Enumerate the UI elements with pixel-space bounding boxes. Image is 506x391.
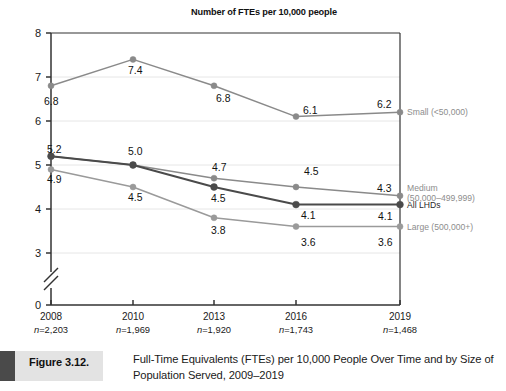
- series-lines: [51, 59, 400, 226]
- x-tick-2019: 2019n=1,468: [365, 311, 435, 336]
- data-label-14: 4.1: [378, 212, 392, 222]
- x-tick-sample-size: n=2,203: [16, 325, 86, 336]
- y-tick-8: 8: [25, 28, 41, 39]
- y-tick-4: 4: [25, 204, 41, 215]
- figure-container: Number of FTEs per 10,000 people 8765430…: [0, 0, 506, 391]
- data-label-6: 5.0: [128, 147, 142, 157]
- y-tick-7: 7: [25, 72, 41, 83]
- x-tick-2016: 2016n=1,743: [261, 311, 331, 336]
- y-tick-5: 5: [25, 160, 41, 171]
- data-label-3: 6.1: [303, 106, 317, 116]
- legend-line-1: Large (500,000+): [407, 222, 473, 232]
- data-label-8: 4.5: [304, 167, 318, 177]
- y-tick-3: 3: [25, 248, 41, 259]
- data-label-12: 4.5: [211, 194, 225, 204]
- legend-label-small-50-000: Small (<50,000): [407, 107, 468, 117]
- legend-label-all-lhds: All LHDs: [407, 200, 440, 210]
- x-tick-2010: 2010n=1,969: [98, 311, 168, 336]
- x-tick-sample-size: n=1,468: [365, 325, 435, 336]
- x-tick-year: 2019: [389, 311, 411, 322]
- x-tick-2013: 2013n=1,920: [179, 311, 249, 336]
- legend-line-1: All LHDs: [407, 200, 440, 210]
- data-label-0: 6.8: [44, 97, 58, 107]
- data-label-11: 4.5: [128, 193, 142, 203]
- data-label-2: 6.8: [216, 94, 230, 104]
- x-tick-sample-size: n=1,969: [98, 325, 168, 336]
- y-tick-0: 0: [25, 300, 41, 311]
- legend-label-large-500-000: Large (500,000+): [407, 222, 473, 232]
- data-label-1: 7.4: [128, 66, 142, 76]
- caption-accent-block: [0, 351, 15, 381]
- data-label-16: 3.6: [301, 238, 315, 248]
- data-label-15: 3.8: [211, 226, 225, 236]
- data-label-4: 6.2: [377, 100, 391, 110]
- x-tick-year: 2008: [40, 311, 62, 322]
- x-tick-year: 2016: [285, 311, 307, 322]
- figure-number: Figure 3.12.: [15, 351, 103, 381]
- figure-caption-text: Full-Time Equivalents (FTEs) per 10,000 …: [133, 352, 503, 384]
- legend-line-1: Medium: [407, 183, 475, 193]
- data-label-9: 4.3: [377, 184, 391, 194]
- x-tick-year: 2013: [203, 311, 225, 322]
- data-label-13: 4.1: [301, 211, 315, 221]
- data-label-10: 4.9: [47, 175, 61, 185]
- x-tick-year: 2010: [122, 311, 144, 322]
- x-tick-sample-size: n=1,743: [261, 325, 331, 336]
- data-label-7: 4.7: [212, 163, 226, 173]
- data-label-17: 3.6: [378, 238, 392, 248]
- y-tick-6: 6: [25, 116, 41, 127]
- x-tick-2008: 2008n=2,203: [16, 311, 86, 336]
- x-tick-sample-size: n=1,920: [179, 325, 249, 336]
- data-label-5: 5.2: [47, 145, 61, 155]
- legend-line-1: Small (<50,000): [407, 107, 468, 117]
